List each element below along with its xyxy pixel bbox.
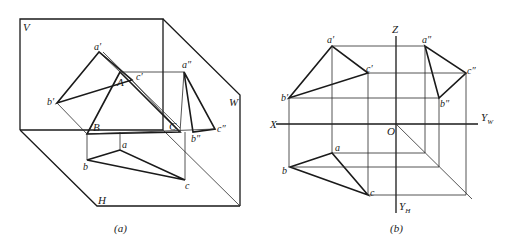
- caption-a: (a): [114, 222, 127, 235]
- label-a: a: [122, 139, 127, 150]
- caption-b: (b): [390, 222, 403, 235]
- label-a-dprime: a″: [182, 59, 192, 70]
- orthographic-projection-figure: V W H a′ b′ c′ A B C a″ b″ c″ a b c (a): [0, 0, 506, 251]
- label-c: c: [185, 180, 190, 191]
- label-point-B: B: [93, 121, 100, 133]
- label-a: a: [335, 142, 340, 153]
- label-c: c: [370, 187, 375, 198]
- label-v-plane: V: [23, 21, 31, 33]
- label-c-prime: c′: [366, 63, 373, 74]
- label-b: b: [282, 165, 287, 176]
- label-a-prime: a′: [327, 34, 335, 45]
- label-w-plane: W: [229, 96, 239, 108]
- side-view-triangle: [425, 46, 466, 98]
- label-c-dprime: c″: [217, 123, 226, 134]
- oy-axis-line: [163, 130, 240, 206]
- projector-c-side: [180, 72, 184, 132]
- label-c-prime: c′: [136, 71, 143, 82]
- top-view-triangle: [290, 153, 368, 195]
- label-yw-axis: YW: [481, 111, 494, 126]
- label-c-dprime: c″: [467, 65, 476, 76]
- label-b-dprime: b″: [440, 98, 450, 109]
- label-a-prime: a′: [94, 41, 102, 52]
- top-projection-triangle: [87, 150, 185, 180]
- 45-degree-line: [396, 124, 472, 199]
- panel-a-pictorial: V W H a′ b′ c′ A B C a″ b″ c″ a b c (a): [20, 19, 240, 235]
- projector-a: [99, 52, 120, 72]
- panel-b-three-view: Z X O YW YH a′ b′ c′ a″ b″ c″ a b c (b): [269, 23, 494, 235]
- side-projection-triangle: [184, 72, 215, 132]
- label-x-axis: X: [269, 118, 278, 130]
- label-point-A: A: [116, 76, 124, 88]
- label-b-dprime: b″: [191, 133, 201, 144]
- label-b-prime: b′: [47, 96, 55, 107]
- label-a-dprime: a″: [422, 34, 432, 45]
- front-view-triangle: [289, 46, 368, 98]
- label-h-plane: H: [97, 194, 107, 206]
- label-z-axis: Z: [392, 23, 399, 35]
- label-origin: O: [387, 125, 395, 137]
- label-b: b: [83, 161, 88, 172]
- label-point-C: C: [169, 120, 177, 132]
- label-b-prime: b′: [281, 92, 289, 103]
- label-yh-axis: YH: [399, 200, 411, 215]
